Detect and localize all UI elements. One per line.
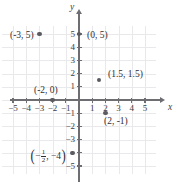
y-axis-tick bbox=[77, 126, 82, 127]
y-tick-label: −2 bbox=[59, 122, 75, 131]
x-axis-tick bbox=[118, 98, 119, 103]
y-tick-label: 2 bbox=[59, 69, 75, 78]
x-tick-label: 5 bbox=[138, 104, 152, 113]
y-axis bbox=[78, 14, 79, 182]
x-axis-tick bbox=[131, 98, 132, 103]
point-1p5-1p5 bbox=[97, 78, 102, 83]
x-tick-label: −4 bbox=[19, 104, 33, 113]
y-tick-label: −3 bbox=[59, 135, 75, 144]
y-axis-label: y bbox=[70, 3, 74, 13]
x-axis-tick bbox=[12, 98, 13, 103]
point-label-1p5-1p5: (1.5, 1.5) bbox=[108, 70, 143, 80]
y-axis-tick bbox=[77, 86, 82, 87]
x-axis-tick bbox=[92, 98, 93, 103]
x-tick-label: 1 bbox=[85, 104, 99, 113]
x-tick-label: 3 bbox=[112, 104, 126, 113]
y-axis-arrow-icon bbox=[76, 9, 82, 14]
point-label-neg2-0: (-2, 0) bbox=[34, 86, 58, 96]
x-axis-tick bbox=[105, 98, 106, 103]
x-axis-tick bbox=[39, 98, 40, 103]
x-tick-label: −5 bbox=[6, 104, 20, 113]
fraction-rest-text: , −4 bbox=[46, 152, 61, 162]
x-tick-label: 4 bbox=[125, 104, 139, 113]
y-axis-tick bbox=[77, 152, 82, 153]
y-axis-tick bbox=[77, 47, 82, 48]
point-2-neg1 bbox=[103, 111, 108, 116]
y-axis-tick bbox=[77, 139, 82, 140]
point-0-5 bbox=[77, 32, 82, 37]
fraction-open-paren: ( bbox=[31, 150, 35, 163]
fraction-close-paren: ) bbox=[62, 150, 66, 163]
y-tick-label: 5 bbox=[59, 30, 75, 39]
point-label-neg-half-neg4: ( − 1 2 , −4 ) bbox=[30, 149, 66, 164]
point-label-0-5: (0, 5) bbox=[87, 31, 108, 41]
y-axis-tick bbox=[77, 113, 82, 114]
y-tick-label: −1 bbox=[59, 109, 75, 118]
x-axis-label: x bbox=[168, 103, 172, 113]
y-tick-label: 3 bbox=[59, 56, 75, 65]
y-axis-tick bbox=[77, 165, 82, 166]
y-tick-label: 4 bbox=[59, 43, 75, 52]
x-axis-tick bbox=[65, 98, 66, 103]
y-axis-tick bbox=[77, 60, 82, 61]
y-axis-tick bbox=[77, 73, 82, 74]
point-label-neg3-5: (-3, 5) bbox=[10, 31, 34, 41]
x-axis-tick bbox=[144, 98, 145, 103]
point-neg2-0 bbox=[50, 98, 55, 103]
x-tick-label: −3 bbox=[32, 104, 46, 113]
x-axis bbox=[10, 99, 160, 100]
point-label-2-neg1: (2, -1) bbox=[104, 117, 128, 127]
point-neg-half-neg4 bbox=[70, 151, 75, 156]
x-tick-label: −2 bbox=[46, 104, 60, 113]
x-axis-arrow-icon bbox=[160, 97, 165, 103]
y-tick-label: 1 bbox=[59, 82, 75, 91]
coordinate-plane-figure: x y −5−4−3−2−11234554321−1−2−3−5 (-3, 5)… bbox=[0, 0, 187, 193]
point-neg3-5 bbox=[37, 32, 42, 37]
x-axis-tick bbox=[26, 98, 27, 103]
